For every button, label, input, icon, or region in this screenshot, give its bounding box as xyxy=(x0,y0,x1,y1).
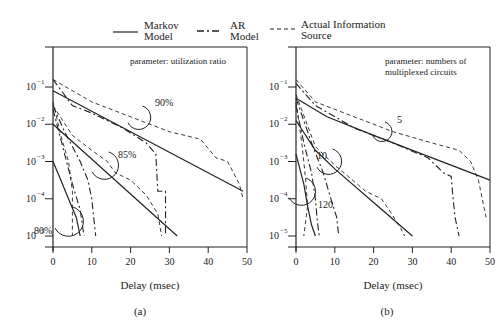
legend: Markov Model AR Model Actual Information… xyxy=(113,18,386,42)
y-tick-exponent: −4 xyxy=(280,190,288,198)
y-tick-label: 10 xyxy=(269,230,279,241)
parameter-label: 80% xyxy=(34,225,52,236)
y-tick-exponent: −5 xyxy=(280,227,288,235)
series-line-solid xyxy=(53,124,177,236)
parameter-label: 120 xyxy=(318,199,333,210)
y-tick-exponent: −2 xyxy=(280,115,288,123)
y-tick-exponent: −1 xyxy=(37,78,45,86)
x-tick-label: 0 xyxy=(294,256,299,267)
y-tick-label: 10 xyxy=(269,118,279,129)
panel-b: parameter: numbers of multiplexed circui… xyxy=(269,47,495,318)
legend-ar-label-2: Model xyxy=(230,30,259,42)
x-tick-label: 20 xyxy=(126,256,136,267)
series-line-dashdot xyxy=(53,80,166,237)
parameter-label: 90% xyxy=(155,97,173,108)
y-tick-label: 10 xyxy=(26,193,36,204)
y-tick-label: 10 xyxy=(26,81,36,92)
panel-a-annotation: parameter: utilization ratio xyxy=(130,56,226,66)
legend-markov-label-2: Model xyxy=(144,30,173,42)
figure: Markov Model AR Model Actual Information… xyxy=(0,0,501,335)
panel-a: parameter: utilization ratio Delay (msec… xyxy=(26,47,252,318)
parameter-bracket xyxy=(55,207,83,236)
parameter-bracket xyxy=(289,178,316,205)
panel-b-annotation-2: multiplexed circuits xyxy=(385,67,457,77)
y-tick-exponent: −2 xyxy=(37,115,45,123)
y-tick-exponent: −1 xyxy=(280,78,288,86)
panel-a-label: (a) xyxy=(134,305,147,318)
x-tick-label: 20 xyxy=(369,256,379,267)
x-tick-label: 10 xyxy=(330,256,340,267)
x-tick-label: 10 xyxy=(87,256,97,267)
x-tick-label: 40 xyxy=(446,256,456,267)
y-tick-label: 10 xyxy=(269,193,279,204)
x-tick-label: 30 xyxy=(407,256,417,267)
y-tick-exponent: −3 xyxy=(37,153,45,161)
parameter-bracket xyxy=(92,152,119,179)
y-tick-label: 10 xyxy=(26,156,36,167)
y-tick-exponent: −3 xyxy=(280,153,288,161)
panel-a-xlabel: Delay (msec) xyxy=(121,279,180,292)
panel-b-xlabel: Delay (msec) xyxy=(364,279,423,292)
x-tick-label: 0 xyxy=(51,256,56,267)
y-tick-label: 10 xyxy=(26,118,36,129)
panel-b-label: (b) xyxy=(381,305,394,318)
series-line-dashed xyxy=(53,80,243,199)
x-tick-label: 50 xyxy=(242,256,252,267)
y-tick-exponent: −4 xyxy=(37,190,45,198)
parameter-label: 85% xyxy=(118,149,136,160)
x-tick-label: 30 xyxy=(164,256,174,267)
legend-actual-label-2: Source xyxy=(301,29,332,41)
series-line-dashdot xyxy=(53,106,96,236)
series-line-solid xyxy=(296,98,490,180)
parameter-label: 5 xyxy=(397,114,402,125)
x-tick-label: 50 xyxy=(485,256,495,267)
x-tick-label: 40 xyxy=(203,256,213,267)
series-line-solid xyxy=(53,91,243,192)
y-tick-label: 10 xyxy=(269,156,279,167)
series-line-solid xyxy=(53,162,80,237)
series-line-dashed xyxy=(296,80,486,218)
y-tick-label: 10 xyxy=(269,81,279,92)
panel-b-annotation-1: parameter: numbers of xyxy=(385,56,466,66)
parameter-label: 10 xyxy=(317,150,327,161)
parameter-bracket xyxy=(128,106,151,129)
